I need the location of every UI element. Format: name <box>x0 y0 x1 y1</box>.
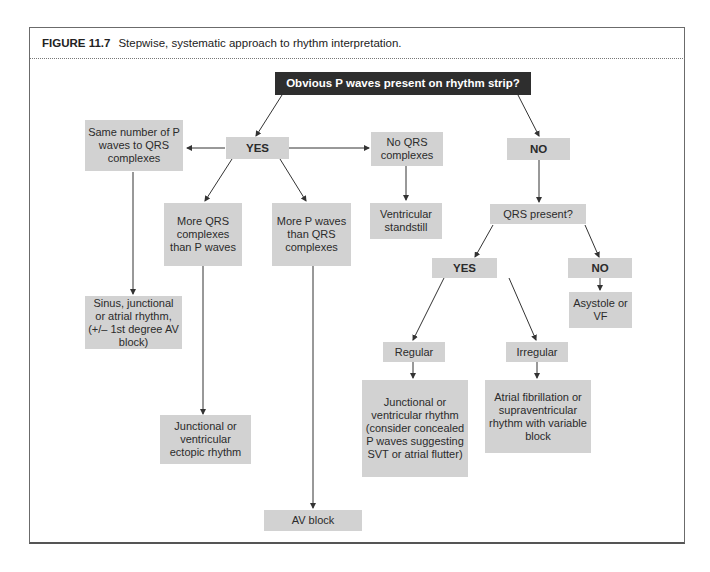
node-more-p: More P waves than QRS complexes <box>272 203 351 266</box>
figure-label: FIGURE 11.7 <box>42 37 110 49</box>
figure-caption: FIGURE 11.7Stepwise, systematic approach… <box>42 37 402 49</box>
node-yes-2: YES <box>432 258 497 278</box>
node-junctional-ventricular-rhythm: Junctional or ventricular rhythm (consid… <box>362 380 468 477</box>
node-no-2: NO <box>568 258 632 278</box>
node-same-number: Same number of P waves to QRS complexes <box>85 120 183 171</box>
caption-divider <box>30 58 685 59</box>
node-junctional-ectopic: Junctional or ventricular ectopic rhythm <box>160 415 251 464</box>
node-asystole-vf: Asystole or VF <box>569 292 632 328</box>
node-av-block: AV block <box>264 510 362 531</box>
node-irregular: Irregular <box>506 342 568 362</box>
node-regular: Regular <box>383 342 445 362</box>
node-no-qrs: No QRS complexes <box>371 132 443 166</box>
node-yes: YES <box>226 137 289 159</box>
figure-caption-text: Stepwise, systematic approach to rhythm … <box>118 37 401 49</box>
node-ventricular-standstill: Ventricular standstill <box>370 203 442 239</box>
node-atrial-fibrillation: Atrial fibrillation or supraventricular … <box>485 380 591 453</box>
node-root-question: Obvious P waves present on rhythm strip? <box>275 72 531 95</box>
node-no: NO <box>507 138 570 160</box>
node-sinus-rhythm: Sinus, junctional or atrial rhythm, (+/–… <box>85 296 182 349</box>
node-qrs-present: QRS present? <box>490 204 586 224</box>
node-more-qrs: More QRS complexes than P waves <box>164 203 242 266</box>
figure-frame <box>29 27 685 544</box>
